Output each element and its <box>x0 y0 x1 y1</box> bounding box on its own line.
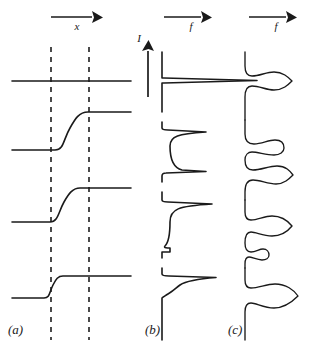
x-axis-arrow-group: x <box>51 11 103 32</box>
panel-label-a: (a) <box>8 322 23 337</box>
f-axis-label-c: f <box>274 20 279 32</box>
x-axis-label: x <box>74 20 80 32</box>
panel-b-trace-1 <box>162 52 257 112</box>
panel-c-trace-3 <box>245 200 292 268</box>
right-arrow-icon <box>92 11 103 23</box>
right-arrow-icon <box>286 11 297 23</box>
panel-c-traces <box>245 52 298 340</box>
panel-label-c: (c) <box>228 322 242 337</box>
panel-c-trace-2 <box>245 120 293 200</box>
intensity-axis-label: I <box>136 32 142 44</box>
panel-b-trace-3 <box>162 192 212 258</box>
panel-a-traces <box>12 81 131 298</box>
panel-b-trace-4 <box>162 268 216 340</box>
f-axis-arrow-group-c: f <box>249 11 297 32</box>
intensity-axis-arrow-group: I <box>136 32 154 97</box>
figure-container: x f f I <box>0 0 310 346</box>
panel-a-trace-4 <box>12 276 131 298</box>
panel-a-trace-3 <box>12 188 131 222</box>
panel-c-trace-4 <box>245 268 298 340</box>
f-axis-label-b: f <box>189 20 194 32</box>
right-arrow-icon <box>201 11 212 23</box>
panel-c-trace-1 <box>245 52 292 120</box>
f-axis-arrow-group-b: f <box>164 11 212 32</box>
panel-b-trace-2 <box>162 122 206 182</box>
panel-a-trace-2 <box>12 112 131 150</box>
panel-label-b: (b) <box>145 322 160 337</box>
scientific-figure: x f f I <box>0 0 310 346</box>
up-arrow-icon <box>142 40 154 51</box>
panel-b-traces <box>162 52 257 340</box>
